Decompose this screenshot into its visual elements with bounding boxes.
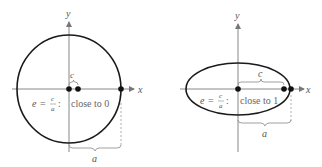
a-label: a xyxy=(92,153,97,164)
right-diagram: x y c e = c a : close to 1 a xyxy=(180,10,311,152)
left-diagram: x y c e = c a : close to 0 a xyxy=(12,8,143,164)
eq-numerator: c xyxy=(51,95,55,103)
eq-numerator: c xyxy=(219,92,223,100)
eq-colon: : xyxy=(58,98,61,109)
focus-dot xyxy=(281,86,287,92)
eq-description: close to 0 xyxy=(71,98,109,109)
eccentricity-diagram: x y c e = c a : close to 0 a x y c xyxy=(0,0,322,167)
a-brace xyxy=(69,145,121,151)
vertex-dot xyxy=(288,86,294,92)
y-axis-label: y xyxy=(65,8,71,19)
vertex-dot xyxy=(118,86,124,92)
c-brace xyxy=(69,80,78,85)
center-dot xyxy=(66,86,72,92)
eq-e: e xyxy=(200,95,205,106)
c-label: c xyxy=(70,70,74,80)
eccentricity-equation: e = c a : close to 1 xyxy=(200,92,278,110)
eq-denominator: a xyxy=(219,102,223,110)
eq-denominator: a xyxy=(51,105,55,113)
eccentricity-equation: e = c a : close to 0 xyxy=(32,95,109,113)
x-axis-label: x xyxy=(305,84,311,95)
focus-dot xyxy=(75,86,81,92)
a-label: a xyxy=(262,128,267,139)
eq-equals: = xyxy=(208,95,214,106)
eq-description: close to 1 xyxy=(240,95,278,106)
y-axis-label: y xyxy=(234,10,240,21)
x-axis-label: x xyxy=(137,84,143,95)
eq-colon: : xyxy=(226,95,229,106)
a-brace xyxy=(238,120,291,126)
eq-equals: = xyxy=(40,98,46,109)
c-label: c xyxy=(258,68,263,79)
c-brace xyxy=(238,79,284,85)
center-dot xyxy=(235,86,241,92)
eq-e: e xyxy=(32,98,37,109)
